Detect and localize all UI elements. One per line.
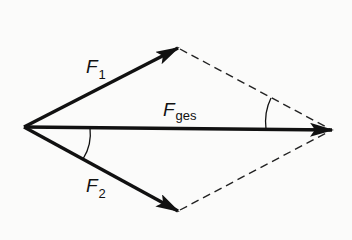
label-f2-subscript: 2 [99,186,106,201]
label-fges-subscript: ges [176,108,197,123]
angle-arc-tip [266,98,271,129]
vector-fges-arrow [24,127,332,130]
dashed-line-f2-to-fges [180,131,330,210]
label-f2-symbol: F [86,175,98,196]
label-f1: F1 [86,57,106,76]
dashed-line-f1-to-fges [180,49,330,129]
label-f2: F2 [86,176,106,195]
angle-arc-origin [83,128,90,159]
label-fges-symbol: F [163,99,175,120]
label-fges: Fges [163,100,197,119]
label-f1-subscript: 1 [99,67,106,82]
label-f1-symbol: F [86,56,98,77]
